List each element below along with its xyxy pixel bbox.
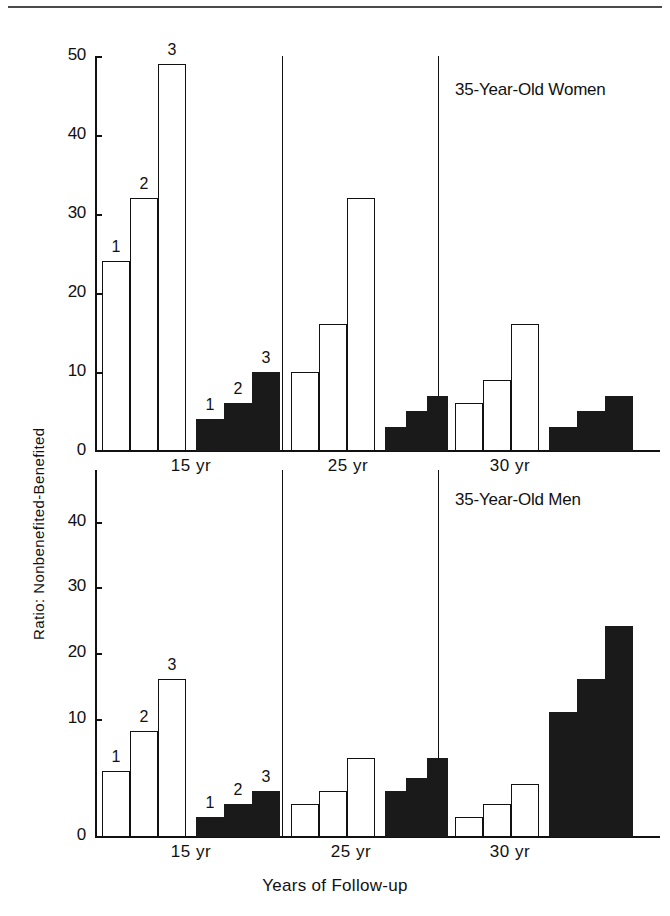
bar-label-men-15yr-solid-1: 1 <box>197 794 223 812</box>
y-ticklabel-women-20: 20 <box>52 282 86 302</box>
bar-women-25yr-open-1 <box>291 372 319 451</box>
bar-men-15yr-solid-1 <box>196 817 224 837</box>
y-tick-men-10 <box>95 719 102 721</box>
x-axis-label: Years of Follow-up <box>0 876 670 896</box>
group-divider-women-1 <box>282 56 283 451</box>
bar-women-30yr-solid-1 <box>549 427 577 451</box>
bar-label-men-15yr-open-1: 1 <box>103 748 129 766</box>
bar-label-women-15yr-solid-1: 1 <box>197 396 223 414</box>
bar-label-women-15yr-solid-2: 2 <box>225 380 251 398</box>
y-ticklabel-men-0: 0 <box>52 825 86 845</box>
bar-men-25yr-solid-2 <box>406 778 427 837</box>
y-tick-men-0 <box>95 836 102 838</box>
y-ticklabel-women-40: 40 <box>52 124 86 144</box>
bar-men-25yr-solid-1 <box>385 791 406 837</box>
group-label-men-30yr: 30 yr <box>450 842 570 862</box>
y-tick-women-20 <box>95 293 102 295</box>
y-ticklabel-women-10: 10 <box>52 361 86 381</box>
y-tick-women-30 <box>95 214 102 216</box>
group-label-men-25yr: 25 yr <box>291 842 411 862</box>
bar-label-women-15yr-open-3: 3 <box>159 41 185 59</box>
bar-women-15yr-open-2 <box>130 198 158 451</box>
y-ticklabel-men-10: 10 <box>52 708 86 728</box>
figure: Ratio: Nonbenefited-Benefited 35-Year-Ol… <box>0 0 670 916</box>
y-ticklabel-women-50: 50 <box>52 45 86 65</box>
y-axis-women <box>95 56 97 451</box>
y-ticklabel-men-20: 20 <box>52 642 86 662</box>
bar-label-women-15yr-open-2: 2 <box>131 175 157 193</box>
bar-women-25yr-solid-3 <box>427 396 448 451</box>
y-ticklabel-men-40: 40 <box>52 511 86 531</box>
bar-label-women-15yr-open-1: 1 <box>103 238 129 256</box>
bar-men-30yr-open-2 <box>483 804 511 837</box>
y-tick-women-0 <box>95 450 102 452</box>
y-ticklabel-women-0: 0 <box>52 440 86 460</box>
y-tick-women-10 <box>95 372 102 374</box>
y-tick-women-50 <box>95 56 102 58</box>
y-ticklabel-women-30: 30 <box>52 203 86 223</box>
bar-men-25yr-open-1 <box>291 804 319 837</box>
bar-men-25yr-solid-3 <box>427 758 448 837</box>
bar-women-30yr-open-1 <box>455 403 483 451</box>
bar-women-15yr-solid-1 <box>196 419 224 451</box>
group-divider-women-2 <box>438 56 439 451</box>
bar-women-25yr-solid-1 <box>385 427 406 451</box>
bar-women-15yr-open-3 <box>158 64 186 451</box>
panel-men-title: 35-Year-Old Men <box>455 490 581 510</box>
bar-label-men-15yr-open-3: 3 <box>159 656 185 674</box>
bar-men-25yr-open-2 <box>319 791 347 837</box>
group-label-men-15yr: 15 yr <box>131 842 251 862</box>
bar-women-25yr-open-2 <box>319 324 347 451</box>
group-divider-men-1 <box>282 470 283 837</box>
panel-women: 35-Year-Old Women 50 40 30 20 10 0 1 2 3… <box>0 0 670 470</box>
bar-men-15yr-solid-2 <box>224 804 252 837</box>
bar-label-men-15yr-open-2: 2 <box>131 708 157 726</box>
bar-men-15yr-solid-3 <box>252 791 280 837</box>
bar-men-15yr-open-2 <box>130 731 158 837</box>
y-tick-men-40 <box>95 522 102 524</box>
bar-label-women-15yr-solid-3: 3 <box>253 349 279 367</box>
bar-label-men-15yr-solid-3: 3 <box>253 768 279 786</box>
bar-women-15yr-open-1 <box>102 261 130 451</box>
bar-men-30yr-open-3 <box>511 784 539 837</box>
bar-men-30yr-solid-2 <box>577 679 605 837</box>
bar-men-25yr-open-3 <box>347 758 375 837</box>
bar-men-30yr-open-1 <box>455 817 483 837</box>
bar-label-men-15yr-solid-2: 2 <box>225 781 251 799</box>
bar-men-15yr-open-3 <box>158 679 186 837</box>
panel-women-title: 35-Year-Old Women <box>455 80 606 100</box>
bar-women-15yr-solid-3 <box>252 372 280 451</box>
bar-women-25yr-solid-2 <box>406 411 427 451</box>
y-tick-men-30 <box>95 587 102 589</box>
bar-women-25yr-open-3 <box>347 198 375 451</box>
bar-men-15yr-open-1 <box>102 771 130 837</box>
bar-women-30yr-open-2 <box>483 380 511 451</box>
bar-women-15yr-solid-2 <box>224 403 252 451</box>
bar-women-30yr-solid-3 <box>605 396 633 451</box>
y-tick-women-40 <box>95 135 102 137</box>
bar-men-30yr-solid-3 <box>605 626 633 837</box>
bar-men-30yr-solid-1 <box>549 712 577 837</box>
y-ticklabel-men-30: 30 <box>52 576 86 596</box>
bar-women-30yr-open-3 <box>511 324 539 451</box>
y-tick-men-20 <box>95 653 102 655</box>
panel-men: 35-Year-Old Men 40 30 20 10 0 1 2 3 1 2 … <box>0 470 670 916</box>
bar-women-30yr-solid-2 <box>577 411 605 451</box>
